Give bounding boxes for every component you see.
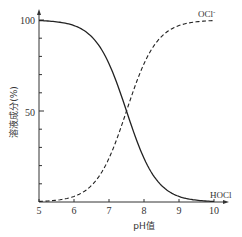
ocl-series-label: OCl-: [198, 8, 216, 19]
x-tick-label-9: 9: [177, 205, 182, 216]
x-axis-arrow-icon: [223, 200, 229, 204]
x-tick-label-10: 10: [209, 205, 219, 216]
y-axis-title: 溶液成分(%): [8, 86, 19, 138]
x-axis: [39, 199, 229, 204]
y-axis: [37, 9, 44, 202]
x-axis-title: pH值: [133, 220, 154, 231]
x-tick-label-8: 8: [142, 205, 147, 216]
x-tick-label-6: 6: [72, 205, 77, 216]
y-tick-label-100: 100: [20, 15, 35, 26]
y-axis-arrow-icon: [37, 9, 41, 15]
x-tick-label-7: 7: [107, 205, 112, 216]
y-ticks: [39, 20, 44, 184]
chart: 100 50 5 6 7 8 9 10 pH值 溶液成分(%) OCl- HOC…: [0, 0, 242, 237]
ocl-curve: [39, 21, 214, 202]
x-tick-label-5: 5: [37, 205, 42, 216]
y-tick-label-50: 50: [25, 107, 35, 118]
hocl-series-label: HOCl: [210, 190, 232, 200]
